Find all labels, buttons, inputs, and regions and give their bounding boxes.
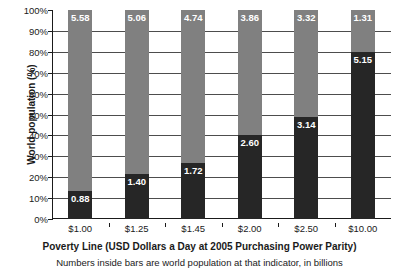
y-axis-tick-label: 40% bbox=[14, 130, 48, 141]
y-axis-tick-label: 100% bbox=[14, 5, 48, 16]
y-axis-tick-label: 20% bbox=[14, 172, 48, 183]
y-axis-tick-mark bbox=[48, 219, 53, 220]
bar-segment-above-poverty[interactable]: 3.86 bbox=[238, 10, 262, 135]
bar-value-label-below: 1.40 bbox=[125, 176, 149, 187]
bar-group[interactable]: 3.323.14 bbox=[294, 10, 318, 219]
bar-segment-above-poverty[interactable]: 4.74 bbox=[181, 10, 205, 163]
bar-value-label-above: 1.31 bbox=[351, 12, 375, 23]
bar-segment-above-poverty[interactable]: 5.06 bbox=[125, 10, 149, 174]
y-axis-tick-label: 0% bbox=[14, 214, 48, 225]
bar-value-label-above: 5.58 bbox=[68, 12, 92, 23]
x-axis-tick-mark bbox=[278, 223, 279, 227]
y-axis-tick-label: 70% bbox=[14, 67, 48, 78]
y-axis-tick-label: 30% bbox=[14, 151, 48, 162]
y-axis-tick-label: 50% bbox=[14, 109, 48, 120]
bar-segment-above-poverty[interactable]: 1.31 bbox=[351, 10, 375, 52]
bar-value-label-below: 3.14 bbox=[294, 119, 318, 130]
bar-segment-below-poverty[interactable]: 5.15 bbox=[351, 52, 375, 219]
bar-value-label-below: 0.88 bbox=[68, 193, 92, 204]
bar-segment-below-poverty[interactable]: 1.40 bbox=[125, 174, 149, 219]
bar-group[interactable]: 5.061.40 bbox=[125, 10, 149, 219]
bar-segment-below-poverty[interactable]: 3.14 bbox=[294, 117, 318, 219]
x-axis-tick-label: $2.00 bbox=[238, 223, 262, 234]
bar-segment-below-poverty[interactable]: 0.88 bbox=[68, 191, 92, 219]
bar-value-label-below: 5.15 bbox=[351, 54, 375, 65]
bar-segment-below-poverty[interactable]: 2.60 bbox=[238, 135, 262, 219]
bar-value-label-above: 3.86 bbox=[238, 12, 262, 23]
x-axis-tick-label: $1.45 bbox=[181, 223, 205, 234]
bar-value-label-above: 3.32 bbox=[294, 12, 318, 23]
poverty-line-stacked-bar-chart: World population (%) 100%90%80%70%60%50%… bbox=[0, 0, 399, 278]
x-axis-subtitle: Numbers inside bars are world population… bbox=[0, 257, 399, 268]
bar-group[interactable]: 4.741.72 bbox=[181, 10, 205, 219]
bar-value-label-below: 2.60 bbox=[238, 137, 262, 148]
x-axis-tick-mark bbox=[109, 223, 110, 227]
bar-group[interactable]: 3.862.60 bbox=[238, 10, 262, 219]
bar-group[interactable]: 5.580.88 bbox=[68, 10, 92, 219]
x-axis-tick-label: $1.25 bbox=[125, 223, 149, 234]
y-axis-tick-label: 80% bbox=[14, 46, 48, 57]
y-axis-tick-label: 60% bbox=[14, 88, 48, 99]
x-axis-title: Poverty Line (USD Dollars a Day at 2005 … bbox=[0, 241, 399, 252]
bar-group[interactable]: 1.315.15 bbox=[351, 10, 375, 219]
y-axis-tick-label: 10% bbox=[14, 193, 48, 204]
bars-layer: 5.580.885.061.404.741.723.862.603.323.14… bbox=[52, 10, 391, 219]
x-axis-tick-labels: $1.00$1.25$1.45$2.00$2.50$10.00 bbox=[52, 223, 391, 237]
x-axis-tick-label: $2.50 bbox=[294, 223, 318, 234]
y-axis-tick-labels: 100%90%80%70%60%50%40%30%20%10%0% bbox=[14, 10, 48, 219]
plot-area: 5.580.885.061.404.741.723.862.603.323.14… bbox=[52, 10, 391, 219]
bar-value-label-above: 5.06 bbox=[125, 12, 149, 23]
x-axis-tick-mark bbox=[335, 223, 336, 227]
bar-segment-above-poverty[interactable]: 3.32 bbox=[294, 10, 318, 117]
bar-segment-above-poverty[interactable]: 5.58 bbox=[68, 10, 92, 191]
x-axis-tick-label: $1.00 bbox=[68, 223, 92, 234]
x-axis-tick-label: $10.00 bbox=[348, 223, 377, 234]
x-axis-tick-mark bbox=[165, 223, 166, 227]
y-axis-tick-label: 90% bbox=[14, 25, 48, 36]
bar-value-label-below: 1.72 bbox=[181, 165, 205, 176]
bar-value-label-above: 4.74 bbox=[181, 12, 205, 23]
bar-segment-below-poverty[interactable]: 1.72 bbox=[181, 163, 205, 219]
x-axis-tick-mark bbox=[222, 223, 223, 227]
